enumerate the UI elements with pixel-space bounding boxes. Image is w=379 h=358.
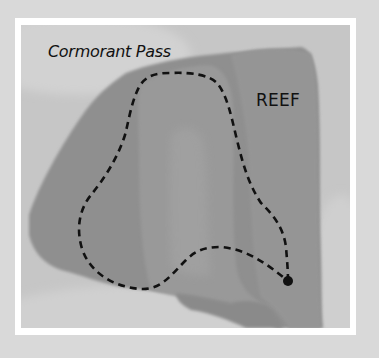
route-end-marker[interactable] xyxy=(283,276,293,286)
place-label-cormorant-pass: Cormorant Pass xyxy=(48,44,171,60)
map-canvas: Cormorant Pass REEF xyxy=(21,25,350,328)
place-label-reef: REEF xyxy=(256,92,300,109)
map-graphic xyxy=(21,25,350,328)
